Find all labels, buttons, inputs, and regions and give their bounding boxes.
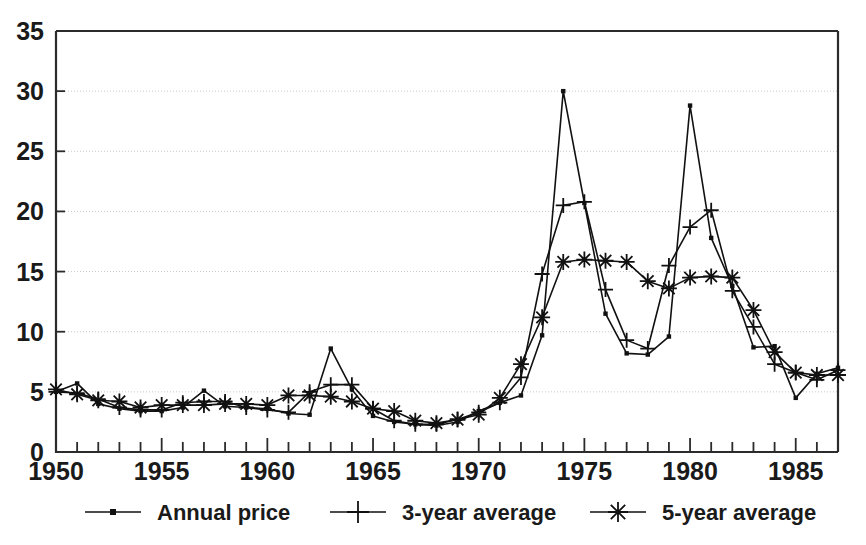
marker-small-dot (794, 396, 798, 400)
x-tick-label: 1970 (451, 457, 507, 485)
marker-asterisk (111, 393, 127, 409)
marker-small-dot (307, 413, 311, 417)
marker-asterisk (428, 415, 444, 431)
x-axis-tick-labels: 19501955196019651970197519801985 (28, 457, 823, 485)
series-line (56, 91, 838, 425)
y-axis-ticks (56, 31, 65, 392)
marker-asterisk (492, 390, 508, 406)
chart-legend: Annual price3-year average5-year average (85, 500, 816, 525)
marker-asterisk (724, 270, 740, 286)
marker-asterisk (450, 412, 466, 428)
marker-asterisk (238, 396, 254, 412)
marker-small-dot (75, 381, 79, 385)
marker-small-dot (624, 351, 628, 355)
marker-asterisk (133, 399, 149, 415)
legend-item: Annual price (85, 500, 290, 525)
marker-small-dot (751, 345, 755, 349)
marker-asterisk (534, 309, 550, 325)
marker-asterisk (661, 280, 677, 296)
marker-plus (683, 220, 698, 235)
marker-small-dot (667, 334, 671, 338)
marker-asterisk (90, 392, 106, 408)
marker-asterisk (788, 365, 804, 381)
marker-small-dot (709, 236, 713, 240)
marker-asterisk (640, 273, 656, 289)
plot-frame (56, 31, 838, 452)
series-line (56, 260, 838, 424)
marker-asterisk (154, 397, 170, 413)
y-tick-label: 25 (16, 137, 44, 165)
series-markers (48, 89, 846, 432)
marker-asterisk (280, 387, 296, 403)
marker-small-dot (329, 346, 333, 350)
x-tick-label: 1965 (345, 457, 401, 485)
marker-small-dot (540, 333, 544, 337)
x-tick-label: 1980 (662, 457, 718, 485)
marker-plus (556, 198, 571, 213)
marker-plus (577, 194, 592, 209)
marker-asterisk (365, 401, 381, 417)
marker-asterisk (809, 367, 825, 383)
y-tick-label: 35 (16, 17, 44, 45)
series-line (56, 202, 838, 425)
marker-asterisk (259, 397, 275, 413)
legend-item: 3-year average (330, 500, 556, 525)
legend-marker-plus (347, 501, 369, 523)
marker-asterisk (175, 397, 191, 413)
chart-container: 05101520253035 1950195519601965197019751… (0, 0, 866, 545)
marker-small-dot (202, 388, 206, 392)
marker-asterisk (344, 393, 360, 409)
y-tick-label: 30 (16, 77, 44, 105)
marker-asterisk (407, 413, 423, 429)
marker-asterisk (682, 270, 698, 286)
y-axis-tick-labels: 05101520253035 (16, 17, 44, 466)
y-tick-label: 5 (30, 378, 44, 406)
series-lines (56, 91, 838, 425)
x-tick-label: 1975 (557, 457, 613, 485)
marker-asterisk (48, 381, 64, 397)
plot-frame-path (56, 31, 838, 452)
marker-small-dot (519, 393, 523, 397)
marker-small-dot (688, 103, 692, 107)
marker-asterisk (196, 397, 212, 413)
marker-asterisk (745, 302, 761, 318)
y-tick-label: 20 (16, 197, 44, 225)
legend-label: 3-year average (402, 500, 556, 525)
marker-asterisk (302, 387, 318, 403)
marker-small-dot (603, 311, 607, 315)
marker-asterisk (471, 407, 487, 423)
legend-marker-small-dot (110, 509, 116, 515)
marker-asterisk (69, 386, 85, 402)
legend-marker-asterisk (608, 502, 628, 522)
x-tick-label: 1955 (134, 457, 190, 485)
marker-asterisk (217, 396, 233, 412)
x-tick-label: 1950 (28, 457, 84, 485)
marker-small-dot (561, 89, 565, 93)
marker-asterisk (323, 389, 339, 405)
line-chart: 05101520253035 1950195519601965197019751… (0, 0, 866, 545)
marker-asterisk (767, 344, 783, 360)
marker-asterisk (555, 254, 571, 270)
x-tick-label: 1960 (240, 457, 296, 485)
marker-asterisk (830, 367, 846, 383)
marker-asterisk (703, 268, 719, 284)
marker-asterisk (386, 403, 402, 419)
marker-asterisk (513, 356, 529, 372)
marker-plus (619, 333, 634, 348)
marker-asterisk (619, 254, 635, 270)
x-tick-label: 1985 (768, 457, 824, 485)
grid-lines (56, 91, 838, 392)
y-tick-label: 10 (16, 318, 44, 346)
y-tick-label: 15 (16, 258, 44, 286)
x-axis-ticks (56, 438, 838, 452)
marker-asterisk (598, 253, 614, 269)
legend-item: 5-year average (590, 500, 816, 525)
legend-label: Annual price (157, 500, 290, 525)
marker-asterisk (576, 252, 592, 268)
legend-label: 5-year average (662, 500, 816, 525)
